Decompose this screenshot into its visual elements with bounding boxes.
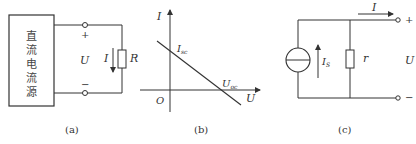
- plus-sign: +: [405, 14, 413, 25]
- isc-label: Isc: [176, 43, 188, 55]
- uoc-label: Uoc: [222, 78, 238, 90]
- output-current-label: I: [371, 1, 377, 14]
- x-axis-label: U: [246, 92, 256, 105]
- origin-label: O: [156, 95, 164, 106]
- source-box-char-4: 流: [26, 71, 37, 85]
- caption-c: (c): [338, 124, 352, 135]
- caption-a: (a): [65, 124, 79, 135]
- plus-sign: +: [81, 29, 89, 40]
- voltage-label: U: [80, 54, 90, 67]
- resistor-label: r: [363, 52, 369, 65]
- current-label: I: [103, 52, 109, 65]
- y-axis-label: I: [156, 10, 162, 23]
- terminal-minus: [396, 96, 400, 100]
- figure-a: 直 流 电 流 源 + − U I R (a): [9, 15, 138, 135]
- source-box-char-3: 电: [26, 58, 37, 71]
- resistor-r-internal: [346, 50, 354, 68]
- is-sub: S: [326, 61, 330, 68]
- voltage-label: U: [405, 54, 415, 67]
- terminal-plus: [396, 18, 400, 22]
- uoc-sub: oc: [230, 83, 238, 90]
- source-box-char-1: 直: [26, 29, 37, 43]
- figure-c: IS r I + − U (c): [286, 1, 415, 135]
- source-box-char-2: 流: [26, 43, 37, 57]
- figure-b: I U O Isc Uoc (b): [140, 10, 260, 135]
- caption-b: (b): [194, 124, 208, 135]
- resistor-r: [118, 50, 126, 68]
- minus-sign: −: [81, 79, 89, 90]
- is-label: IS: [321, 56, 330, 68]
- circuit-figures: 直 流 电 流 源 + − U I R (a) I U O Isc U: [0, 0, 416, 144]
- isc-sub: sc: [181, 48, 188, 55]
- minus-sign: −: [405, 92, 413, 103]
- terminal-minus: [83, 91, 88, 96]
- resistor-label: R: [129, 52, 138, 65]
- source-box-char-5: 源: [26, 85, 37, 99]
- terminal-plus: [83, 23, 88, 28]
